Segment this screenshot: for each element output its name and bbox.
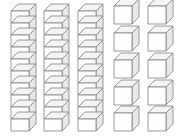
rod-3-unit-10 [78,112,103,131]
unit-cube-2 [148,0,173,24]
rod-1-unit-10-front-face [11,119,29,131]
unit-cube-1-body-front-face [114,6,132,24]
unit-cube-3-body-front-face [114,33,132,51]
unit-cube-4-body-front-face [148,33,166,51]
unit-cube-7 [114,80,139,105]
unit-cube-9-body [114,106,139,131]
unit-cube-4-body [148,26,173,51]
rod-3 [78,4,103,131]
unit-cube-10-body [148,106,173,131]
unit-cube-8-body [148,80,173,105]
unit-cube-10-body-front-face [148,113,166,131]
unit-cube-8-body-front-face [148,87,166,105]
unit-cube-2-body-front-face [148,6,166,24]
rod-2-unit-10-front-face [44,119,62,131]
rod-1 [11,4,36,131]
rod-2 [44,4,69,131]
unit-cube-9-body-front-face [114,113,132,131]
unit-cube-6 [148,53,173,78]
unit-cube-5-body [114,53,139,78]
unit-cube-5-body-front-face [114,60,132,78]
unit-cube-2-body [148,0,173,24]
unit-cube-10 [148,106,173,131]
unit-cube-6-body-front-face [148,60,166,78]
rod-1-unit-10 [11,112,36,131]
base-ten-blocks-canvas [0,0,180,138]
unit-cube-3 [114,26,139,51]
unit-cube-7-body [114,80,139,105]
rod-2-unit-10 [44,112,69,131]
unit-cube-5 [114,53,139,78]
unit-cube-6-body [148,53,173,78]
unit-cube-8 [148,80,173,105]
unit-cube-4 [148,26,173,51]
unit-cube-7-body-front-face [114,87,132,105]
unit-cube-1 [114,0,139,24]
blocks-illustration [0,0,180,138]
unit-cube-3-body [114,26,139,51]
unit-cube-9 [114,106,139,131]
rod-3-unit-10-front-face [78,119,96,131]
unit-cube-1-body [114,0,139,24]
